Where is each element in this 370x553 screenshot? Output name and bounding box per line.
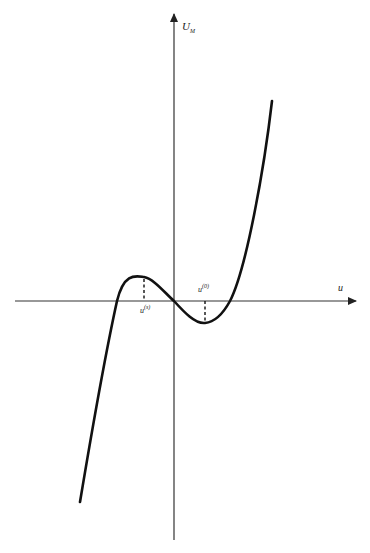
potential-curve-figure xyxy=(0,0,370,553)
y-axis-label-text: U xyxy=(182,20,190,32)
local-max-label: u(s) xyxy=(140,304,150,315)
local-min-label-superscript: (0) xyxy=(202,283,209,289)
x-axis-label: u xyxy=(338,282,343,293)
local-min-label: u(0) xyxy=(198,283,209,294)
y-axis-label-subscript: M xyxy=(190,28,195,34)
local-max-label-superscript: (s) xyxy=(144,304,150,310)
y-axis-label: UM xyxy=(182,20,195,34)
